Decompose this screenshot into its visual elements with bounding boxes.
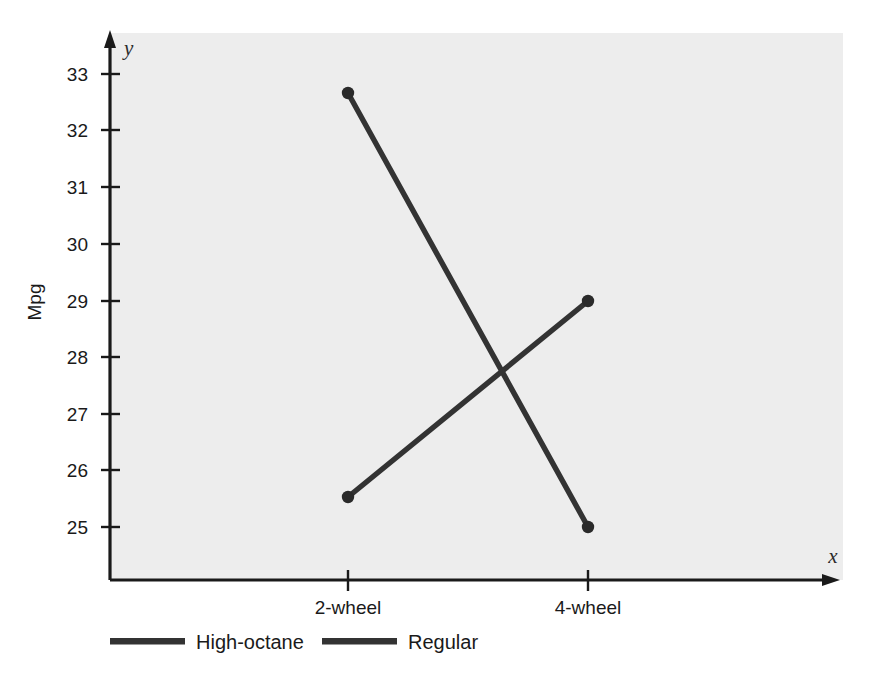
y-axis-arrowhead bbox=[104, 30, 116, 48]
y-tick-label-26: 26 bbox=[67, 460, 88, 481]
legend-swatch-high-octane bbox=[110, 638, 185, 645]
series-regular-point-2-wheel bbox=[342, 491, 354, 503]
legend-label-high-octane: High-octane bbox=[196, 631, 304, 653]
y-tick-labels: 33 32 31 30 29 28 27 26 25 bbox=[67, 64, 88, 538]
x-axis-name: x bbox=[827, 544, 838, 568]
x-axis-arrowhead bbox=[822, 574, 840, 586]
y-tick-label-25: 25 bbox=[67, 517, 88, 538]
series-high-octane bbox=[342, 87, 594, 533]
legend-swatch-regular bbox=[322, 638, 397, 645]
x-tick-label-4-wheel: 4-wheel bbox=[555, 597, 622, 618]
y-tick-label-27: 27 bbox=[67, 404, 88, 425]
legend-entry-high-octane[interactable]: High-octane bbox=[110, 631, 304, 653]
y-tick-label-32: 32 bbox=[67, 120, 88, 141]
series-high-octane-line bbox=[348, 93, 588, 527]
chart-legend: High-octane Regular bbox=[110, 631, 478, 653]
y-axis-name: y bbox=[122, 36, 134, 60]
y-tick-label-30: 30 bbox=[67, 234, 88, 255]
y-tick-label-31: 31 bbox=[67, 177, 88, 198]
y-axis-title: Mpg bbox=[24, 284, 45, 321]
x-tick-label-2-wheel: 2-wheel bbox=[315, 597, 382, 618]
y-tick-label-29: 29 bbox=[67, 291, 88, 312]
legend-entry-regular[interactable]: Regular bbox=[322, 631, 478, 653]
interaction-plot: 33 32 31 30 29 28 27 26 25 Mpg y x 2-whe… bbox=[0, 0, 877, 679]
series-regular-point-4-wheel bbox=[582, 295, 594, 307]
x-tick-labels: 2-wheel 4-wheel bbox=[315, 597, 622, 618]
series-high-octane-point-4-wheel bbox=[582, 521, 594, 533]
legend-label-regular: Regular bbox=[408, 631, 478, 653]
y-axis bbox=[104, 30, 116, 580]
y-tick-label-28: 28 bbox=[67, 347, 88, 368]
x-axis bbox=[110, 574, 840, 586]
series-high-octane-point-2-wheel bbox=[342, 87, 354, 99]
y-tick-label-33: 33 bbox=[67, 64, 88, 85]
series-regular-line bbox=[348, 301, 588, 497]
chart-figure: 33 32 31 30 29 28 27 26 25 Mpg y x 2-whe… bbox=[0, 0, 877, 679]
